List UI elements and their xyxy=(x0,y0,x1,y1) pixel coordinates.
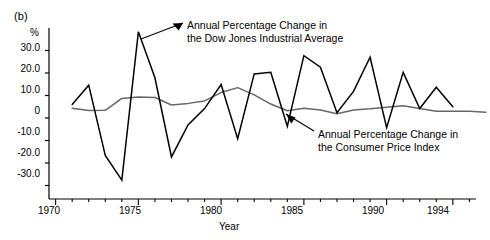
leader-arrow-cpi xyxy=(286,114,314,131)
figure-panel: (b) % 30.0 20.0 10.0 0 -10.0 -20.0 -30.0… xyxy=(0,0,490,240)
x-axis-ticks xyxy=(56,199,470,205)
plot-canvas xyxy=(0,0,490,240)
leader-arrow-djia xyxy=(141,23,183,39)
axis-lines xyxy=(49,28,476,199)
